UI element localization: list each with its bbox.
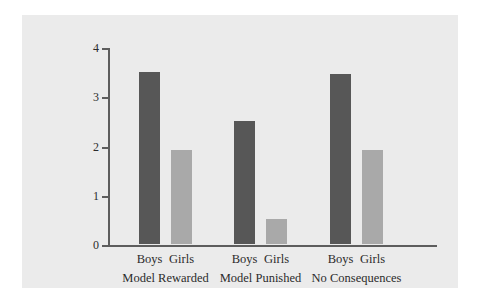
y-tick-mark xyxy=(102,245,108,247)
x-sub-label-girls: Girls xyxy=(157,253,207,266)
bar-model-punished-girls xyxy=(266,219,287,244)
x-sub-label-girls: Girls xyxy=(252,253,302,266)
x-axis-line xyxy=(108,245,437,247)
figure: Mean Number of Different Imitative Respo… xyxy=(0,0,478,304)
y-tick-label: 4 xyxy=(93,42,99,54)
x-sub-label-girls: Girls xyxy=(348,253,398,266)
bar-no-consequences-boys xyxy=(330,74,351,244)
bar-model-rewarded-girls xyxy=(171,150,192,244)
y-axis-title: Mean Number of Different Imitative Respo… xyxy=(41,0,87,48)
y-tick-label: 3 xyxy=(93,91,99,103)
y-tick-mark xyxy=(102,196,108,198)
y-tick-label: 0 xyxy=(93,239,99,251)
y-tick-mark xyxy=(102,97,108,99)
y-axis-line xyxy=(108,48,110,247)
bar-model-punished-boys xyxy=(234,121,255,244)
y-tick-label: 1 xyxy=(93,190,99,202)
plot-area: 01234 BoysGirlsModel RewardedBoysGirlsMo… xyxy=(108,48,438,246)
bar-no-consequences-girls xyxy=(362,150,383,244)
y-tick-mark xyxy=(102,147,108,149)
x-group-label-no-consequences: No Consequences xyxy=(297,272,417,285)
y-tick-mark xyxy=(102,48,108,50)
bar-model-rewarded-boys xyxy=(139,72,160,244)
y-tick-label: 2 xyxy=(93,141,99,153)
